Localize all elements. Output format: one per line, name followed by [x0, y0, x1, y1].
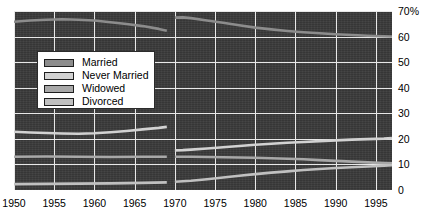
y-tick-40: 40	[398, 82, 410, 93]
y-tick-50: 50	[398, 57, 410, 68]
y-tick-70: 70%	[398, 6, 419, 17]
x-tick-1995: 1995	[364, 198, 387, 209]
legend-label-never-married: Never Married	[82, 70, 149, 81]
legend-item-divorced: Divorced	[44, 95, 154, 108]
series-line-never-married	[14, 127, 167, 134]
y-tick-10: 10	[398, 159, 410, 170]
legend-item-married: Married	[44, 56, 154, 69]
x-tick-1985: 1985	[284, 198, 307, 209]
legend-swatch-divorced	[44, 98, 74, 106]
x-tick-1955: 1955	[43, 198, 66, 209]
legend-label-married: Married	[82, 57, 118, 68]
x-tick-1970: 1970	[163, 198, 186, 209]
legend-label-widowed: Widowed	[82, 83, 125, 94]
y-tick-0: 0	[398, 185, 404, 196]
x-tick-1975: 1975	[203, 198, 226, 209]
legend-label-divorced: Divorced	[82, 96, 123, 107]
series-line-married	[14, 19, 167, 31]
series-line-married	[175, 17, 392, 36]
y-tick-20: 20	[398, 134, 410, 145]
series-line-widowed	[14, 157, 167, 158]
legend-swatch-married	[44, 59, 74, 67]
y-tick-30: 30	[398, 108, 410, 119]
series-line-never-married	[175, 138, 392, 150]
legend-item-widowed: Widowed	[44, 82, 154, 95]
series-line-widowed	[175, 157, 392, 164]
y-tick-60: 60	[398, 31, 410, 42]
x-tick-1950: 1950	[2, 198, 25, 209]
chart-legend: Married Never Married Widowed Divorced	[37, 51, 155, 109]
legend-swatch-never-married	[44, 72, 74, 80]
legend-swatch-widowed	[44, 85, 74, 93]
x-tick-1980: 1980	[244, 198, 267, 209]
legend-item-never-married: Never Married	[44, 69, 154, 82]
x-tick-1990: 1990	[324, 198, 347, 209]
marital-status-line-chart: 1950195519601965197019751980198519901995…	[0, 0, 434, 223]
x-tick-1960: 1960	[83, 198, 106, 209]
x-tick-1965: 1965	[123, 198, 146, 209]
series-line-divorced	[14, 182, 167, 184]
series-line-divorced	[175, 165, 392, 182]
